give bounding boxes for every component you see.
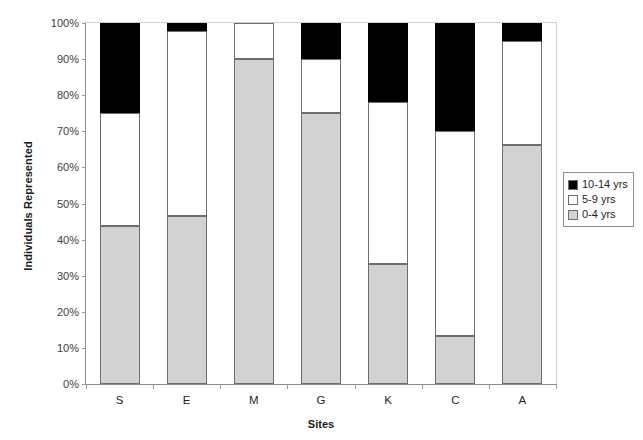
x-axis-tick-mark — [422, 384, 423, 389]
legend-swatch-icon — [568, 210, 578, 220]
legend-item[interactable]: 0-4 yrs — [568, 207, 628, 222]
bar-S[interactable] — [100, 23, 140, 384]
x-axis-tick-mark — [355, 384, 356, 389]
bar-segment-E-10-14-yrs[interactable] — [167, 23, 207, 31]
bar-segment-S-5-9-yrs[interactable] — [100, 113, 140, 226]
x-axis-tick-mark — [153, 384, 154, 389]
bar-M[interactable] — [234, 23, 274, 384]
bar-segment-M-0-4-yrs[interactable] — [234, 59, 274, 384]
bar-segment-S-10-14-yrs[interactable] — [100, 23, 140, 113]
bar-segment-K-5-9-yrs[interactable] — [368, 102, 408, 263]
chart-legend: 10-14 yrs5-9 yrs0-4 yrs — [563, 172, 634, 227]
bar-K[interactable] — [368, 23, 408, 384]
bar-segment-C-0-4-yrs[interactable] — [435, 336, 475, 384]
y-axis-tick-label: 50% — [57, 198, 86, 210]
x-axis-tick-mark — [556, 384, 557, 389]
y-axis-title: Individuals Represented — [22, 106, 34, 306]
y-axis-tick-label: 80% — [57, 89, 86, 101]
stacked-bar-chart: Individuals Represented 0%10%20%30%40%50… — [0, 0, 643, 440]
bar-E[interactable] — [167, 23, 207, 384]
legend-item-label: 0-4 yrs — [582, 209, 616, 220]
x-axis-label-C: C — [451, 394, 459, 406]
bar-segment-S-0-4-yrs[interactable] — [100, 226, 140, 384]
y-axis-tick-label: 90% — [57, 53, 86, 65]
y-axis-tick-label: 70% — [57, 125, 86, 137]
bar-segment-G-0-4-yrs[interactable] — [301, 113, 341, 384]
legend-item[interactable]: 10-14 yrs — [568, 177, 628, 192]
legend-swatch-icon — [568, 195, 578, 205]
bar-segment-C-5-9-yrs[interactable] — [435, 131, 475, 336]
x-axis-label-M: M — [249, 394, 259, 406]
bar-G[interactable] — [301, 23, 341, 384]
legend-swatch-icon — [568, 180, 578, 190]
x-axis-tick-mark — [220, 384, 221, 389]
bar-segment-E-0-4-yrs[interactable] — [167, 216, 207, 384]
bar-A[interactable] — [502, 23, 542, 384]
y-axis-tick-label: 100% — [51, 17, 86, 29]
y-axis-tick-label: 0% — [63, 378, 86, 390]
x-axis-label-G: G — [317, 394, 326, 406]
bar-segment-A-10-14-yrs[interactable] — [502, 23, 542, 41]
x-axis-label-S: S — [116, 394, 124, 406]
y-axis-tick-label: 40% — [57, 234, 86, 246]
x-axis-tick-mark — [287, 384, 288, 389]
x-axis-label-A: A — [519, 394, 527, 406]
bar-segment-M-5-9-yrs[interactable] — [234, 23, 274, 59]
bar-segment-K-10-14-yrs[interactable] — [368, 23, 408, 102]
bar-segment-C-10-14-yrs[interactable] — [435, 23, 475, 131]
x-axis-label-E: E — [183, 394, 191, 406]
y-axis-tick-label: 30% — [57, 270, 86, 282]
legend-item-label: 10-14 yrs — [582, 179, 628, 190]
y-axis-tick-label: 60% — [57, 161, 86, 173]
bar-segment-E-5-9-yrs[interactable] — [167, 31, 207, 216]
bar-segment-G-5-9-yrs[interactable] — [301, 59, 341, 113]
plot-area: 0%10%20%30%40%50%60%70%80%90%100%SEMGKCA — [85, 22, 557, 385]
bar-segment-G-10-14-yrs[interactable] — [301, 23, 341, 59]
legend-item-label: 5-9 yrs — [582, 194, 616, 205]
legend-item[interactable]: 5-9 yrs — [568, 192, 628, 207]
y-axis-tick-label: 10% — [57, 342, 86, 354]
x-axis-tick-mark — [86, 384, 87, 389]
bar-segment-K-0-4-yrs[interactable] — [368, 264, 408, 384]
x-axis-label-K: K — [384, 394, 392, 406]
bar-segment-A-0-4-yrs[interactable] — [502, 145, 542, 384]
x-axis-title: Sites — [85, 418, 557, 430]
bar-segment-A-5-9-yrs[interactable] — [502, 41, 542, 145]
y-axis-tick-label: 20% — [57, 306, 86, 318]
bar-C[interactable] — [435, 23, 475, 384]
x-axis-tick-mark — [489, 384, 490, 389]
